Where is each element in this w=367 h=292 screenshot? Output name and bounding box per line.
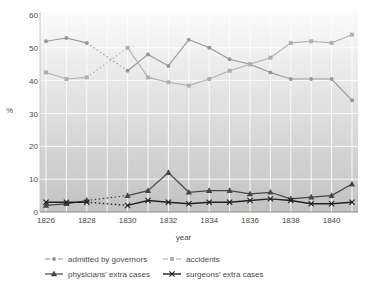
square-marker-icon [126,46,130,50]
square-marker-icon [170,257,174,261]
legend-row: physicians' extra casessurgeons' extra c… [45,269,264,279]
legend-sample-square-icon [163,254,181,264]
square-marker-icon [44,70,48,74]
circle-marker-icon [126,69,130,73]
square-marker-icon [85,75,89,79]
circle-marker-icon [309,77,313,81]
circle-marker-icon [228,57,232,61]
legend-item: admitted by governors [45,254,163,264]
legend-sample-triangle-icon [45,269,63,279]
y-tick-label: 30 [29,110,38,119]
square-marker-icon [309,39,313,43]
square-marker-icon [248,62,252,66]
circle-marker-icon [166,64,170,68]
square-marker-icon [350,33,354,37]
y-tick-label: 50 [29,44,38,53]
line-chart: 0102030405060182618281830183218341836183… [0,0,367,250]
square-marker-icon [64,77,68,81]
legend-row: admitted by governorsaccidents [45,254,264,264]
legend-item: accidents [163,254,220,264]
square-marker-icon [187,84,191,88]
circle-marker-icon [44,39,48,43]
square-marker-icon [146,75,150,79]
y-axis-title: % [6,106,13,115]
square-marker-icon [289,41,293,45]
circle-marker-icon [64,36,68,40]
x-tick-label: 1830 [119,216,137,225]
circle-marker-icon [268,70,272,74]
legend-sample-x-icon [163,269,181,279]
legend-label: surgeons' extra cases [186,270,264,279]
x-tick-label: 1826 [37,216,55,225]
x-tick-label: 1838 [282,216,300,225]
circle-marker-icon [330,77,334,81]
y-tick-label: 40 [29,77,38,86]
x-tick-label: 1836 [241,216,259,225]
y-tick-label: 20 [29,142,38,151]
circle-marker-icon [350,98,354,102]
circle-marker-icon [52,257,56,261]
plot-area: 0102030405060182618281830183218341836183… [29,11,358,225]
x-tick-label: 1832 [160,216,178,225]
y-tick-label: 60 [29,11,38,20]
circle-marker-icon [289,77,293,81]
x-axis-title: year [0,233,367,242]
x-tick-label: 1828 [78,216,96,225]
square-marker-icon [330,41,334,45]
circle-marker-icon [207,46,211,50]
x-tick-label: 1834 [200,216,218,225]
legend-label: accidents [186,255,220,264]
legend-label: physicians' extra cases [68,270,150,279]
square-marker-icon [207,77,211,81]
legend-sample-circle-icon [45,254,63,264]
y-tick-label: 10 [29,175,38,184]
x-tick-label: 1840 [323,216,341,225]
legend-item: surgeons' extra cases [163,269,264,279]
chart-legend: admitted by governorsaccidentsphysicians… [45,254,264,279]
square-marker-icon [228,69,232,73]
circle-marker-icon [187,38,191,42]
square-marker-icon [268,56,272,60]
chart-page: 0102030405060182618281830183218341836183… [0,0,367,292]
circle-marker-icon [85,41,89,45]
legend-item: physicians' extra cases [45,269,163,279]
circle-marker-icon [146,52,150,56]
square-marker-icon [166,80,170,84]
legend-label: admitted by governors [68,255,147,264]
